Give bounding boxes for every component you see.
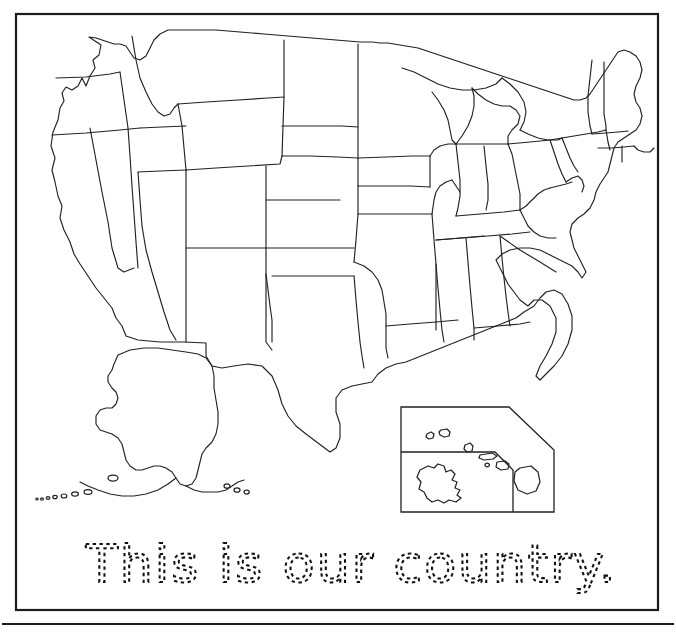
worksheet-page: This is our country. (0, 0, 676, 632)
tracing-sentence: This is our country. (85, 534, 618, 594)
